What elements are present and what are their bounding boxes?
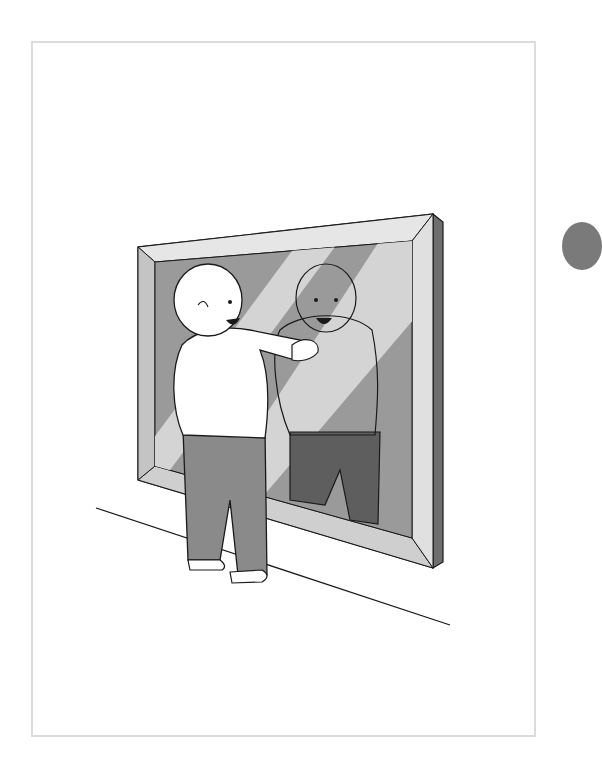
illustration — [0, 0, 570, 770]
